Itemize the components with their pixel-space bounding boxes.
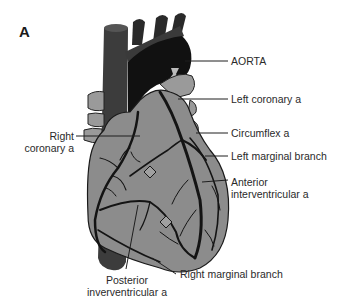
label-right-coronary-line2: coronary a <box>4 142 74 154</box>
label-left-marginal: Left marginal branch <box>231 150 327 162</box>
label-right-coronary-line1: Right <box>4 130 74 142</box>
label-posterior-iv-line1: Posterior <box>72 274 182 286</box>
label-aorta: AORTA <box>231 55 266 67</box>
label-anterior-iv-line2: interventricular a <box>231 188 309 200</box>
label-posterior-interventricular: Posterior inverventricular a <box>72 274 182 298</box>
label-circumflex: Circumflex a <box>231 127 289 139</box>
label-left-coronary: Left coronary a <box>231 93 301 105</box>
label-right-coronary: Right coronary a <box>4 130 74 154</box>
label-posterior-iv-line2: inverventricular a <box>72 286 182 298</box>
label-anterior-interventricular: Anterior interventricular a <box>231 176 309 200</box>
label-anterior-iv-line1: Anterior <box>231 176 309 188</box>
label-right-marginal: Right marginal branch <box>180 268 283 280</box>
